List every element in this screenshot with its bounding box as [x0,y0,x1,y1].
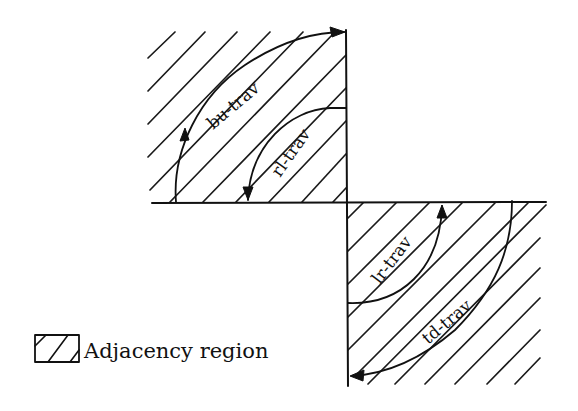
td-trav-label: td-trav [418,295,476,348]
lr-trav-arc: lr-trav [348,205,447,303]
legend: Adjacency region [35,335,268,363]
arrow-left-icon [350,370,364,381]
arrow-up-icon [437,205,447,218]
bu-trav-label: bu-trav [203,77,264,133]
arrow-up-icon [180,128,189,141]
upper-left-adjacency-region [148,32,346,202]
lower-right-adjacency-region [348,203,546,384]
arrow-right-icon [330,27,345,37]
vertical-axis [346,30,348,386]
rl-trav-label: rl-trav [267,124,315,180]
legend-label: Adjacency region [83,339,268,363]
horizontal-axis [152,202,546,203]
rl-trav-arc: rl-trav [243,108,346,200]
axes [152,30,546,386]
traversal-diagram: bu-trav rl-trav lr-trav td-trav Adjacenc… [0,0,578,411]
